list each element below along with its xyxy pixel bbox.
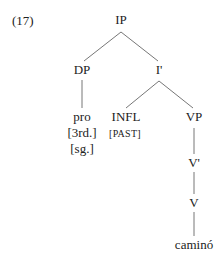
pro-person-feature: [3rd.] [67, 126, 96, 140]
terminal-verb: caminó [175, 238, 213, 252]
branch-ip-ibar [121, 32, 158, 61]
pro-number-feature: [sg.] [70, 142, 93, 156]
branch-ip-dp [84, 32, 121, 61]
node-v: V [189, 196, 198, 210]
branch-ibar-infl [126, 81, 159, 108]
infl-tense-feature: [PAST] [109, 127, 141, 141]
node-infl: INFL [112, 110, 141, 124]
node-i-bar: I' [156, 63, 163, 77]
node-dp: DP [74, 63, 91, 77]
tree-branches [0, 0, 216, 260]
node-pro: pro [73, 110, 90, 124]
node-v-bar: V' [188, 156, 200, 170]
node-ip: IP [115, 13, 127, 27]
branch-ibar-vp [159, 81, 193, 108]
node-vp: VP [186, 110, 203, 124]
